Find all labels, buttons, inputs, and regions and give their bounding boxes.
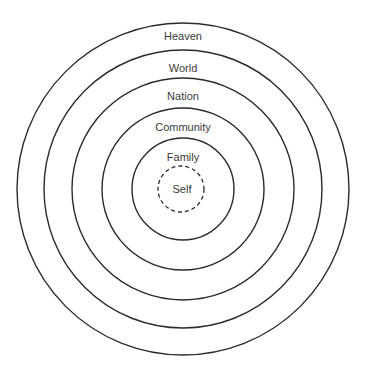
label-heaven: Heaven — [164, 30, 202, 42]
label-self: Self — [173, 183, 193, 195]
label-community: Community — [155, 121, 211, 133]
label-world: World — [169, 62, 198, 74]
concentric-circles-diagram: Heaven World Nation Community Family Sel… — [0, 0, 365, 377]
label-family: Family — [167, 151, 200, 163]
label-nation: Nation — [167, 90, 199, 102]
